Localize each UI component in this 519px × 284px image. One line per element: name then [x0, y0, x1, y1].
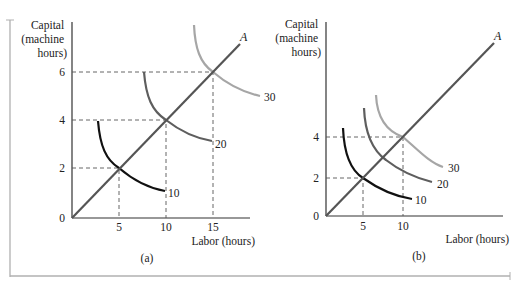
panel-a-x-axis-label: Labor (hours) [191, 235, 255, 248]
figure-frame [6, 20, 510, 280]
panel-b-isoquant-10-label: 10 [415, 194, 427, 206]
panel-a-y-tick-6: 6 [59, 66, 65, 78]
panel-b-ray-label: A [493, 29, 502, 43]
panel-a: Capital (machine hours) A 10 20 30 0 2 4… [21, 19, 275, 265]
panel-b-isoquant-30-label: 30 [448, 162, 460, 174]
panel-b-expansion-path-A [326, 43, 494, 216]
returns-to-scale-figure: Capital (machine hours) A 10 20 30 0 2 4… [0, 0, 519, 284]
panel-b-isoquant-20-label: 20 [437, 178, 449, 190]
panel-b-origin-label: 0 [313, 210, 319, 222]
panel-b: Capital (machine hours) A 10 20 30 0 2 4… [275, 18, 509, 263]
panel-a-caption: (a) [141, 252, 154, 265]
panel-a-isoquant-30-label: 30 [264, 91, 276, 103]
panel-a-x-tick-10: 10 [160, 221, 172, 233]
panel-a-y-tick-4: 4 [59, 114, 65, 126]
panel-b-y-tick-2: 2 [313, 172, 319, 184]
panel-a-y-tick-2: 2 [59, 162, 65, 174]
panel-a-y-axis-label: Capital (machine hours) [21, 19, 67, 60]
panel-b-isoquant-20 [364, 108, 432, 182]
panel-b-x-tick-10: 10 [397, 220, 409, 232]
panel-b-y-tick-4: 4 [313, 131, 319, 143]
panel-b-caption: (b) [412, 250, 426, 263]
panel-a-expansion-path-A [72, 44, 240, 218]
panel-a-isoquant-10-label: 10 [168, 187, 180, 199]
panel-a-isoquant-20-label: 20 [215, 138, 227, 150]
panel-a-ray-label: A [239, 30, 248, 44]
panel-a-isoquant-30 [194, 25, 260, 96]
panel-b-y-axis-label: Capital (machine hours) [275, 18, 321, 59]
panel-b-x-axis-label: Labor (hours) [445, 233, 509, 246]
panel-b-x-tick-5: 5 [360, 220, 366, 232]
panel-a-origin-label: 0 [59, 212, 65, 224]
panel-a-x-tick-5: 5 [116, 221, 122, 233]
panel-a-x-tick-15: 15 [207, 221, 219, 233]
